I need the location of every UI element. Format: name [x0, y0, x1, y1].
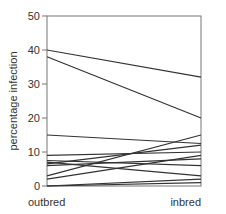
y-tick-label: 50 — [28, 10, 40, 22]
series-line — [47, 155, 201, 179]
data-lines — [47, 50, 201, 186]
slope-chart: 01020304050 percentage infection outbred… — [0, 0, 226, 214]
y-axis-label: percentage infection — [7, 51, 19, 150]
x-label-outbred: outbred — [28, 196, 65, 208]
y-axis: 01020304050 — [28, 10, 47, 192]
y-tick-label: 30 — [28, 78, 40, 90]
y-tick-label: 10 — [28, 146, 40, 158]
series-line — [47, 135, 201, 144]
series-line — [47, 57, 201, 118]
y-tick-label: 0 — [34, 180, 40, 192]
x-label-inbred: inbred — [170, 196, 201, 208]
y-tick-label: 40 — [28, 44, 40, 56]
series-line — [47, 50, 201, 77]
y-tick-label: 20 — [28, 112, 40, 124]
